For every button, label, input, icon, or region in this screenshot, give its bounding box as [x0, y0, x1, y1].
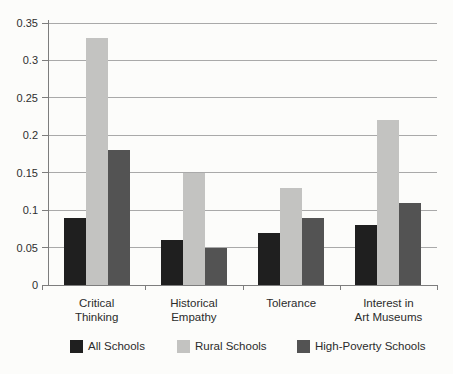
bar-chart-figure: 00.050.10.150.20.250.30.35CriticalThinki… [0, 0, 453, 374]
legend-label: All Schools [88, 340, 145, 352]
legend-item-rural-schools: Rural Schools [177, 339, 267, 353]
category-label: CriticalThinking [48, 296, 145, 324]
y-axis-label: 0.1 [0, 204, 38, 216]
bar-rural-schools-critical-thinking [86, 38, 108, 285]
bar-high-poverty-schools-interest-in-art-museums [399, 203, 421, 285]
category-label-line: Interest in [340, 296, 437, 310]
bar-high-poverty-schools-critical-thinking [108, 150, 130, 285]
y-axis-label: 0.2 [0, 129, 38, 141]
category-label-line: Thinking [48, 310, 145, 324]
bar-all-schools-historical-empathy [161, 240, 183, 285]
category-label: Interest inArt Museums [340, 296, 437, 324]
y-axis-label: 0.15 [0, 167, 38, 179]
bar-all-schools-critical-thinking [64, 218, 86, 285]
y-axis-line [48, 20, 49, 286]
bar-high-poverty-schools-tolerance [302, 218, 324, 285]
y-axis-label: 0.3 [0, 54, 38, 66]
x-axis-tick [340, 285, 341, 290]
category-label-line: Empathy [145, 310, 242, 324]
gridline [48, 23, 437, 24]
legend-swatch [70, 340, 83, 353]
legend-label: High-Poverty Schools [315, 340, 426, 352]
legend-swatch [177, 340, 190, 353]
y-axis-label: 0.35 [0, 17, 38, 29]
bar-all-schools-interest-in-art-museums [355, 225, 377, 285]
bar-rural-schools-tolerance [280, 188, 302, 285]
category-label-line: Art Museums [340, 310, 437, 324]
x-axis-tick [145, 285, 146, 290]
bar-rural-schools-historical-empathy [183, 173, 205, 285]
x-axis-tick [42, 285, 43, 290]
legend-item-all-schools: All Schools [70, 339, 145, 353]
category-label: HistoricalEmpathy [145, 296, 242, 324]
bar-high-poverty-schools-historical-empathy [205, 248, 227, 285]
category-label-line: Critical [48, 296, 145, 310]
category-label-line: Tolerance [243, 296, 340, 310]
category-label: Tolerance [243, 296, 340, 310]
x-axis-tick [437, 285, 438, 290]
legend-swatch [297, 340, 310, 353]
y-axis-label: 0.05 [0, 242, 38, 254]
y-axis-label: 0 [0, 279, 38, 291]
bar-all-schools-tolerance [258, 233, 280, 285]
legend-label: Rural Schools [195, 340, 267, 352]
legend-item-high-poverty-schools: High-Poverty Schools [297, 339, 426, 353]
x-axis-tick [243, 285, 244, 290]
y-axis-label: 0.25 [0, 92, 38, 104]
bar-rural-schools-interest-in-art-museums [377, 120, 399, 285]
category-label-line: Historical [145, 296, 242, 310]
x-axis-line [42, 285, 438, 286]
